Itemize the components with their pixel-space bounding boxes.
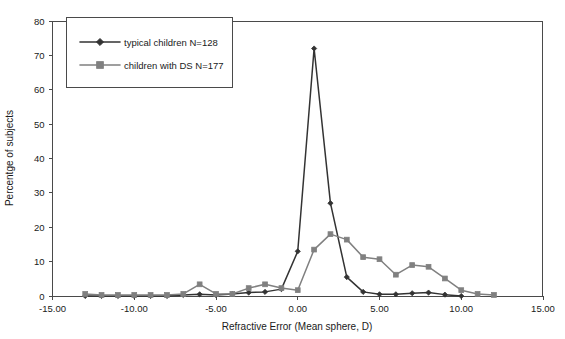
x-tick-label: 10.00: [449, 303, 473, 314]
data-point-marker: [99, 293, 104, 298]
data-point-marker: [230, 292, 235, 297]
data-point-marker: [312, 46, 317, 51]
data-point-marker: [377, 257, 382, 262]
data-point-marker: [492, 293, 497, 298]
chart-legend: typical children N=128 children with DS …: [67, 18, 233, 88]
y-axis-title: Percentge of subjects: [4, 110, 15, 206]
legend-label-typical-children: typical children N=128: [124, 37, 218, 48]
x-tick-label: 5.00: [370, 303, 389, 314]
y-tick-label: 10: [34, 256, 45, 267]
legend-marker-square-ds: [97, 62, 104, 69]
data-point-marker: [443, 276, 448, 281]
data-point-marker: [295, 288, 300, 293]
data-point-marker: [246, 286, 251, 291]
data-point-marker: [426, 290, 431, 295]
data-point-marker: [459, 288, 464, 293]
y-tick-label: 40: [34, 153, 45, 164]
data-point-marker: [344, 237, 349, 242]
y-tick-label: 20: [34, 222, 45, 233]
data-point-marker: [116, 293, 121, 298]
line-chart: 01020304050607080 -15.00-10.00-5.000.005…: [0, 0, 565, 339]
y-tick-label: 70: [34, 50, 45, 61]
data-point-marker: [197, 282, 202, 287]
data-point-marker: [328, 232, 333, 237]
x-tick-label: -15.00: [39, 303, 66, 314]
x-tick-label: -5.00: [205, 303, 227, 314]
x-axis-ticks: -15.00-10.00-5.000.005.0010.0015.00: [39, 296, 555, 314]
data-point-marker: [410, 263, 415, 268]
x-tick-label: 0.00: [289, 303, 308, 314]
chart-figure: 01020304050607080 -15.00-10.00-5.000.005…: [0, 0, 565, 339]
data-point-marker: [262, 289, 267, 294]
y-tick-label: 0: [39, 291, 44, 302]
data-point-marker: [361, 255, 366, 260]
data-point-marker: [83, 292, 88, 297]
data-point-marker: [475, 292, 480, 297]
data-point-marker: [132, 293, 137, 298]
data-point-marker: [181, 292, 186, 297]
y-axis-ticks: 01020304050607080: [34, 16, 53, 302]
x-axis-title: Refractive Error (Mean sphere, D): [222, 321, 373, 332]
data-point-marker: [214, 292, 219, 297]
data-point-marker: [426, 264, 431, 269]
y-tick-label: 60: [34, 84, 45, 95]
y-tick-label: 80: [34, 16, 45, 27]
y-tick-label: 30: [34, 187, 45, 198]
x-tick-label: 15.00: [531, 303, 555, 314]
data-point-marker: [148, 293, 153, 298]
legend-label-children-with-ds: children with DS N=177: [124, 60, 224, 71]
data-point-marker: [279, 286, 284, 291]
y-tick-label: 50: [34, 119, 45, 130]
data-point-marker: [393, 272, 398, 277]
data-point-marker: [459, 293, 464, 298]
data-point-marker: [263, 282, 268, 287]
legend-box: [67, 18, 233, 88]
data-point-marker: [328, 201, 333, 206]
series-line: [85, 234, 494, 295]
data-point-marker: [410, 291, 415, 296]
data-point-marker: [295, 249, 300, 254]
data-point-marker: [312, 247, 317, 252]
series-children-with-ds: [83, 232, 497, 298]
x-tick-label: -10.00: [121, 303, 148, 314]
data-point-marker: [165, 293, 170, 298]
